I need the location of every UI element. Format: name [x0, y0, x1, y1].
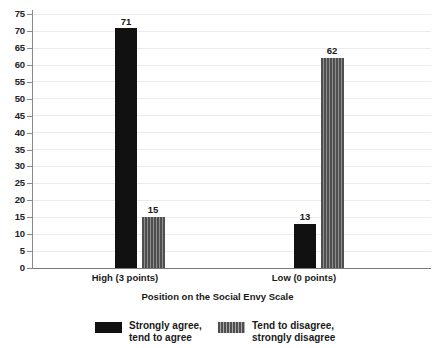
bar-label-low-tend-disagree: 62: [312, 45, 352, 56]
y-tick-label-75: 75: [1, 9, 25, 19]
x-axis-title: Position on the Social Envy Scale: [0, 291, 435, 303]
legend-item-tend-disagree: Tend to disagree, strongly disagree: [218, 320, 335, 343]
tick-mark-5: [27, 251, 32, 252]
gridline-60: [33, 65, 431, 66]
legend-swatch-striped-icon: [218, 322, 245, 333]
bar-label-low-strongly-agree: 13: [285, 211, 325, 222]
bar-chart: 71 15 13 62 75 70 65 60 55 50 45 40 35 3…: [0, 0, 435, 348]
gridline-15: [33, 217, 431, 218]
legend-swatch-solid-icon: [95, 322, 122, 333]
y-tick-50: 50: [0, 94, 25, 104]
gridline-50: [33, 98, 431, 99]
tick-mark-20: [27, 200, 32, 201]
tick-mark-40: [27, 133, 32, 134]
y-tick-65: 65: [0, 43, 25, 53]
legend-label-strongly-agree: Strongly agree, tend to agree: [129, 320, 202, 343]
tick-mark-70: [27, 31, 32, 32]
y-tick-10: 10: [0, 229, 25, 239]
category-label-low: Low (0 points): [244, 272, 364, 284]
bar-label-high-tend-disagree: 15: [133, 204, 173, 215]
y-tick-label-45: 45: [1, 111, 25, 121]
gridline-75: [33, 14, 431, 15]
y-tick-40: 40: [0, 128, 25, 138]
y-tick-15: 15: [0, 212, 25, 222]
y-tick-30: 30: [0, 161, 25, 171]
tick-mark-10: [27, 234, 32, 235]
tick-mark-60: [27, 65, 32, 66]
y-tick-label-65: 65: [1, 43, 25, 53]
y-tick-label-35: 35: [1, 145, 25, 155]
y-tick-55: 55: [0, 77, 25, 87]
y-tick-20: 20: [0, 195, 25, 205]
gridline-10: [33, 234, 431, 235]
y-tick-label-55: 55: [1, 77, 25, 87]
y-tick-label-40: 40: [1, 128, 25, 138]
tick-mark-55: [27, 82, 32, 83]
gridline-65: [33, 48, 431, 49]
tick-mark-45: [27, 116, 32, 117]
plot-area: 71 15 13 62: [33, 14, 431, 268]
tick-mark-35: [27, 150, 32, 151]
tick-mark-65: [27, 48, 32, 49]
y-tick-5: 5: [0, 246, 25, 256]
y-tick-label-25: 25: [1, 178, 25, 188]
gridline-5: [33, 251, 431, 252]
bar-high-strongly-agree: [115, 28, 137, 269]
gridline-45: [33, 115, 431, 116]
gridline-25: [33, 183, 431, 184]
gridline-35: [33, 149, 431, 150]
legend: Strongly agree, tend to agree Tend to di…: [0, 320, 435, 348]
y-axis-line: [32, 10, 33, 269]
y-tick-label-15: 15: [1, 212, 25, 222]
y-tick-75: 75: [0, 9, 25, 19]
y-tick-70: 70: [0, 26, 25, 36]
y-tick-label-60: 60: [1, 60, 25, 70]
y-tick-35: 35: [0, 145, 25, 155]
legend-label-tend-disagree: Tend to disagree, strongly disagree: [252, 320, 335, 343]
bar-high-tend-disagree: [142, 217, 165, 268]
gridline-30: [33, 166, 431, 167]
gridline-20: [33, 200, 431, 201]
y-tick-0: 0: [0, 263, 25, 273]
y-tick-label-5: 5: [1, 246, 25, 256]
gridline-40: [33, 132, 431, 133]
legend-item-strongly-agree: Strongly agree, tend to agree: [95, 320, 202, 343]
y-tick-label-10: 10: [1, 229, 25, 239]
y-tick-label-20: 20: [1, 195, 25, 205]
y-tick-45: 45: [0, 111, 25, 121]
bar-low-tend-disagree: [321, 58, 344, 268]
y-tick-25: 25: [0, 178, 25, 188]
y-tick-60: 60: [0, 60, 25, 70]
tick-mark-25: [27, 183, 32, 184]
y-tick-label-70: 70: [1, 26, 25, 36]
y-tick-label-30: 30: [1, 161, 25, 171]
bar-label-high-strongly-agree: 71: [106, 16, 146, 27]
tick-mark-30: [27, 166, 32, 167]
y-tick-label-50: 50: [1, 94, 25, 104]
tick-mark-0: [27, 268, 32, 269]
tick-mark-15: [27, 217, 32, 218]
y-tick-label-0: 0: [1, 263, 25, 273]
gridline-55: [33, 81, 431, 82]
bar-low-strongly-agree: [294, 224, 316, 268]
gridline-70: [33, 31, 431, 32]
tick-mark-75: [27, 14, 32, 15]
category-label-high: High (3 points): [65, 272, 185, 284]
x-axis-line: [33, 268, 431, 269]
tick-mark-50: [27, 99, 32, 100]
